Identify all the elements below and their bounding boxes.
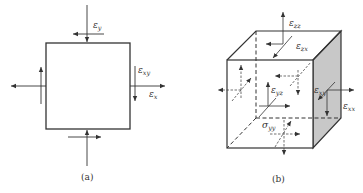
label-eps-x: εx	[149, 89, 158, 101]
label-eps-zz: εzz	[289, 18, 301, 30]
label-eps-y: εy	[93, 20, 102, 32]
caption-b: (b)	[272, 174, 285, 184]
element-square	[46, 43, 130, 129]
label-eps-xx: εxx	[343, 101, 356, 113]
arrow-zx-diagonal	[273, 36, 292, 58]
figure-a	[11, 5, 165, 166]
label-eps-zx: εzx	[296, 41, 308, 53]
figure-a-labels: εy εxy εx (a)	[81, 20, 158, 182]
strain-diagram: εy εxy εx (a)	[0, 0, 363, 193]
label-eps-xy: εxy	[138, 65, 151, 77]
caption-a: (a)	[81, 172, 93, 182]
